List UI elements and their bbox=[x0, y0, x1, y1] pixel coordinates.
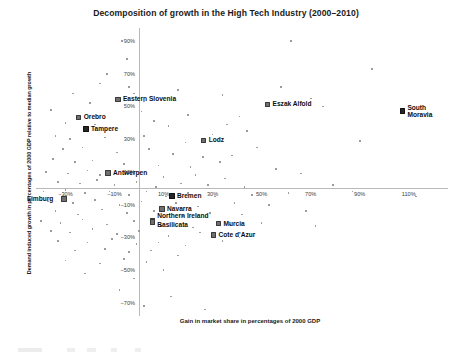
data-point bbox=[415, 196, 417, 198]
data-point bbox=[168, 125, 170, 127]
data-point bbox=[89, 102, 91, 104]
data-point-highlighted bbox=[159, 206, 164, 211]
page-title: Decomposition of growth in the High Tech… bbox=[0, 8, 452, 18]
data-point bbox=[214, 196, 216, 198]
x-tick-label: −10% bbox=[99, 191, 129, 197]
data-point bbox=[315, 225, 317, 227]
data-point bbox=[187, 114, 189, 116]
data-point bbox=[288, 192, 290, 194]
data-point bbox=[92, 160, 94, 162]
data-point bbox=[275, 168, 277, 170]
data-point bbox=[111, 238, 113, 240]
data-point bbox=[143, 305, 145, 307]
data-point bbox=[359, 140, 361, 142]
data-point bbox=[222, 94, 224, 96]
data-point bbox=[84, 273, 86, 275]
data-point bbox=[155, 186, 157, 188]
data-point bbox=[222, 240, 224, 242]
data-point-highlighted bbox=[150, 219, 155, 224]
data-point bbox=[202, 156, 204, 158]
x-tick-label: 30% bbox=[198, 191, 228, 197]
data-point bbox=[55, 135, 57, 137]
data-point bbox=[87, 170, 89, 172]
data-point bbox=[82, 147, 84, 149]
data-point bbox=[224, 178, 226, 180]
data-point bbox=[45, 171, 47, 173]
data-point bbox=[106, 224, 108, 226]
data-point bbox=[256, 147, 258, 149]
data-point bbox=[82, 219, 84, 221]
data-point bbox=[72, 202, 74, 204]
data-point bbox=[170, 296, 172, 298]
y-axis-label: Demand induced growth in percentages of … bbox=[26, 48, 32, 298]
data-point-highlighted bbox=[201, 138, 206, 143]
data-point bbox=[231, 155, 233, 157]
data-point bbox=[332, 184, 334, 186]
data-point bbox=[116, 233, 118, 235]
data-point bbox=[185, 142, 187, 144]
data-point bbox=[192, 227, 194, 229]
data-point-label: Lodz bbox=[209, 136, 224, 144]
data-point bbox=[116, 152, 118, 154]
data-point bbox=[290, 40, 292, 42]
data-point bbox=[99, 263, 101, 265]
data-point-label: Basilicata bbox=[157, 221, 188, 229]
data-point bbox=[123, 163, 125, 165]
y-tick-label: 30% bbox=[105, 136, 135, 142]
caption-edge bbox=[18, 348, 168, 352]
y-tick-label: 90% bbox=[105, 38, 135, 44]
y-tick-label: −30% bbox=[105, 234, 135, 240]
data-point bbox=[67, 173, 69, 175]
data-point bbox=[74, 161, 76, 163]
data-point bbox=[209, 212, 211, 214]
data-point bbox=[163, 269, 165, 271]
data-point bbox=[177, 89, 179, 91]
data-point bbox=[190, 166, 192, 168]
data-point bbox=[204, 309, 206, 311]
data-point bbox=[241, 214, 243, 216]
data-point bbox=[150, 250, 152, 252]
data-point bbox=[300, 173, 302, 175]
data-point-highlighted bbox=[76, 115, 81, 120]
data-point bbox=[74, 250, 76, 252]
data-point bbox=[310, 98, 312, 100]
data-point bbox=[99, 83, 101, 85]
data-point bbox=[148, 148, 150, 150]
x-tick-label: 110% bbox=[394, 191, 424, 197]
data-point bbox=[128, 194, 130, 196]
data-point bbox=[268, 204, 270, 206]
data-point bbox=[195, 174, 197, 176]
data-point bbox=[153, 120, 155, 122]
data-point bbox=[153, 210, 155, 212]
data-point bbox=[79, 183, 81, 185]
data-point bbox=[65, 122, 67, 124]
data-point-label: Orebro bbox=[84, 113, 106, 121]
data-point-highlighted bbox=[83, 126, 88, 131]
x-axis-label: Gain in market share in percentages of 2… bbox=[105, 318, 395, 324]
data-point bbox=[141, 111, 143, 113]
data-point bbox=[158, 242, 160, 244]
data-point bbox=[52, 158, 54, 160]
data-point bbox=[146, 191, 148, 193]
x-axis-line bbox=[36, 188, 448, 189]
x-tick-label: 90% bbox=[345, 191, 375, 197]
data-point-label: Limburg bbox=[27, 195, 53, 203]
data-point-highlighted bbox=[115, 97, 120, 102]
data-point-highlighted bbox=[105, 170, 110, 175]
data-point bbox=[158, 165, 160, 167]
data-point bbox=[141, 201, 143, 203]
data-point bbox=[119, 204, 121, 206]
data-point bbox=[55, 210, 57, 212]
data-point-highlighted bbox=[400, 108, 405, 113]
data-point bbox=[62, 148, 64, 150]
data-point bbox=[197, 206, 199, 208]
data-point bbox=[168, 235, 170, 237]
data-point bbox=[133, 278, 135, 280]
data-point bbox=[146, 261, 148, 263]
data-point bbox=[106, 73, 108, 75]
data-point bbox=[104, 248, 106, 250]
data-point-label: Cote d'Azur bbox=[219, 231, 256, 239]
data-point-label: Antwerpen bbox=[113, 169, 147, 177]
data-point bbox=[50, 109, 52, 111]
data-point bbox=[172, 153, 174, 155]
